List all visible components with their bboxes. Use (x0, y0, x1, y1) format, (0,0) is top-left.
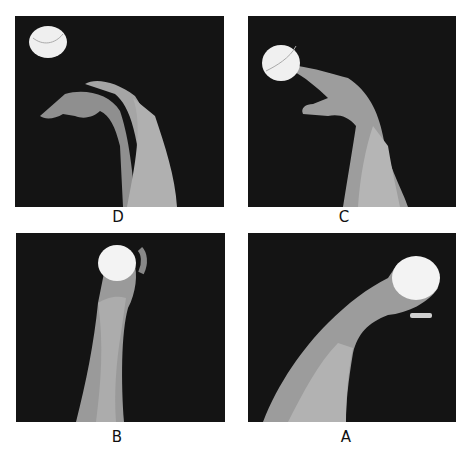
photo-panel-c (248, 16, 456, 207)
arm-ball-illustration-c (248, 16, 456, 207)
panel-label-c: C (324, 210, 364, 225)
photo-panel-d (15, 16, 224, 207)
panel-label-b: B (97, 430, 137, 445)
panel-label-a: A (326, 430, 366, 445)
arm-ball-illustration-b (16, 233, 225, 422)
panel-label-d: D (98, 210, 138, 225)
arm-ball-illustration-a (248, 233, 456, 422)
arm-ball-illustration-d (15, 16, 224, 207)
photo-panel-b (16, 233, 225, 422)
photo-panel-a (248, 233, 456, 422)
